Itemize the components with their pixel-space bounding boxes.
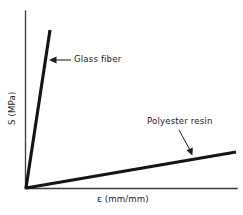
y-axis-label: S (MPa) xyxy=(8,82,17,134)
x-axis-label: ε (mm/mm) xyxy=(97,195,149,204)
series-line-polyester-resin xyxy=(26,152,236,188)
stress-strain-chart: Glass fiber Polyester resin S (MPa) ε (m… xyxy=(0,0,243,215)
annotation-label-polyester-resin: Polyester resin xyxy=(147,117,213,126)
plot-area xyxy=(0,0,243,215)
annotation-label-glass-fiber: Glass fiber xyxy=(74,55,121,64)
polyester-resin-leader-line xyxy=(179,130,190,150)
glass-fiber-arrowhead-icon xyxy=(49,57,57,64)
series-line-glass-fiber xyxy=(26,30,50,188)
